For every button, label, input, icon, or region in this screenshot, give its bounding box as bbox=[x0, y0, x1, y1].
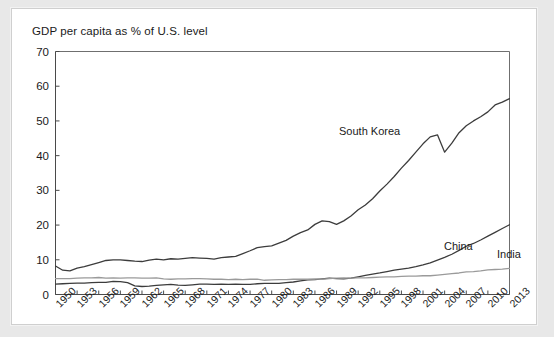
y-axis-tick-labels: 010203040506070 bbox=[12, 51, 49, 295]
y-tick-label: 60 bbox=[36, 80, 49, 92]
y-tick-label: 70 bbox=[36, 46, 49, 58]
series-lines bbox=[56, 99, 510, 287]
series-line-south-korea bbox=[56, 99, 510, 271]
chart-title: GDP per capita as % of U.S. level bbox=[32, 25, 208, 37]
series-line-china bbox=[56, 225, 510, 287]
y-tick-label: 10 bbox=[36, 254, 49, 266]
series-line-india bbox=[56, 268, 510, 280]
figure-frame: GDP per capita as % of U.S. level 010203… bbox=[11, 8, 537, 325]
plot-area bbox=[55, 51, 510, 295]
y-tick-label: 50 bbox=[36, 115, 49, 127]
series-label-china: China bbox=[444, 240, 473, 252]
x-axis-tick-labels: 1950195319561959196219651968197119741977… bbox=[55, 298, 511, 337]
y-tick-marks bbox=[56, 52, 60, 295]
y-tick-label: 40 bbox=[36, 150, 49, 162]
y-tick-label: 20 bbox=[36, 219, 49, 231]
series-label-south-korea: South Korea bbox=[339, 125, 400, 137]
series-label-india: India bbox=[497, 248, 521, 260]
y-tick-label: 0 bbox=[43, 289, 49, 301]
x-tick-label: 2013 bbox=[507, 284, 532, 309]
line-chart-svg bbox=[55, 51, 510, 295]
y-tick-label: 30 bbox=[36, 184, 49, 196]
